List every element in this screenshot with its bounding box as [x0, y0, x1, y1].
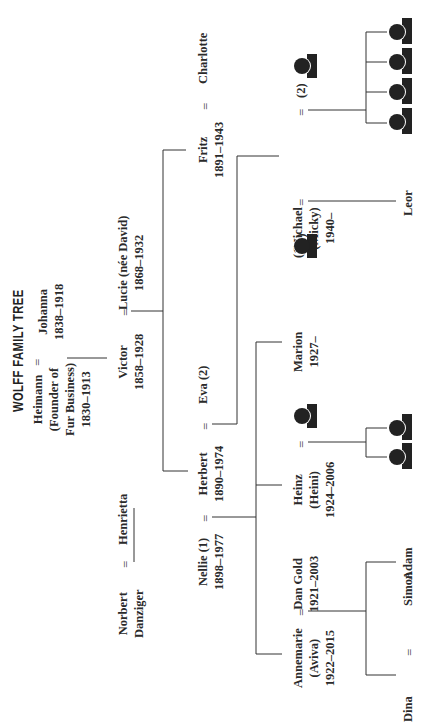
person-eva: Eva (2): [195, 365, 211, 404]
person-herbert: Herbert 1890–1974: [195, 446, 227, 502]
marriage-sign: =: [294, 199, 310, 206]
person-silhouette-icon: [292, 232, 320, 258]
person-victor: Victor 1858–1928: [115, 334, 147, 390]
person-charlotte: Charlotte: [195, 33, 211, 84]
person-adam: Adam: [400, 547, 416, 580]
person-leor: Leor: [400, 190, 416, 216]
marriage-sign: =: [294, 109, 310, 116]
marriage-sign: =: [198, 103, 214, 110]
person-silhouette-icon: [387, 443, 415, 469]
person-silhouette-icon: [387, 48, 415, 74]
family-tree: WOLFF FAMILY TREE Heimann (Founder of Fu…: [0, 0, 432, 722]
person-marion: Marion 1927–: [290, 332, 322, 372]
person-dan-gold: Dan Gold 1921–2003: [290, 556, 322, 612]
person-annemarie: Annemarie (Aviva) 1922–2015: [290, 628, 338, 688]
connector-lines: [0, 0, 432, 722]
marriage-sign: =: [118, 561, 134, 568]
person-silhouette-icon: [387, 78, 415, 104]
marriage-sign: =: [402, 649, 418, 656]
marriage-sign: =: [30, 359, 46, 366]
marriage-sign: =: [198, 515, 214, 522]
spouse-2-label: (2): [293, 83, 309, 98]
person-johanna: Johanna 1838–1918: [35, 284, 67, 340]
person-fritz: Fritz 1891–1943: [195, 122, 227, 178]
person-norbert-danziger: Norbert Danziger: [115, 589, 147, 638]
person-silhouette-icon: [387, 108, 415, 134]
person-silhouette-icon: [292, 402, 320, 428]
person-dina: Dina: [400, 696, 416, 722]
person-silhouette-icon: [292, 52, 320, 78]
person-henrietta: Henrietta: [115, 494, 131, 545]
person-heimann: Heimann (Founder of Fur Business) 1830–1…: [30, 363, 94, 436]
page-title: WOLFF FAMILY TREE: [10, 289, 26, 412]
person-silhouette-icon: [387, 18, 415, 44]
marriage-sign: =: [198, 423, 214, 430]
person-lucie: Lucie (née David) 1868–1932: [115, 216, 147, 310]
person-silhouette-icon: [387, 414, 415, 440]
person-heinz: Heinz (Heini) 1924–2006: [290, 462, 338, 518]
person-nellie: Nellie (1) 1898–1977: [195, 534, 227, 590]
marriage-sign: =: [294, 441, 310, 448]
